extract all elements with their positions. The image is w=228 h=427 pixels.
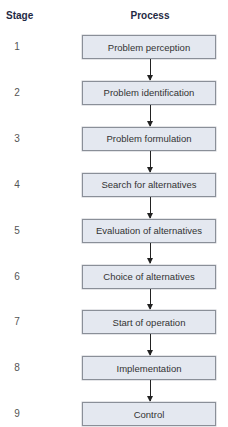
down-arrow-icon (150, 59, 151, 80)
stage-column-header: Stage (6, 10, 33, 21)
stage-number: 3 (12, 133, 22, 144)
process-box: Implementation (82, 356, 216, 380)
process-box: Choice of alternatives (82, 265, 216, 289)
down-arrow-icon (150, 197, 151, 218)
stage-number: 1 (12, 41, 22, 52)
process-box: Problem identification (82, 81, 216, 105)
flow-step: 4Search for alternatives (0, 173, 228, 198)
stage-number: 9 (12, 408, 22, 419)
stage-number: 5 (12, 225, 22, 236)
stage-number: 2 (12, 87, 22, 98)
process-box: Problem perception (82, 35, 216, 59)
stage-number: 6 (12, 271, 22, 282)
flow-step: 5Evaluation of alternatives (0, 219, 228, 244)
stage-number: 4 (12, 179, 22, 190)
down-arrow-icon (150, 380, 151, 401)
stage-number: 8 (12, 362, 22, 373)
flow-step: 6Choice of alternatives (0, 265, 228, 290)
process-box: Control (82, 402, 216, 426)
down-arrow-icon (150, 289, 151, 310)
down-arrow-icon (150, 334, 151, 355)
flow-step: 1Problem perception (0, 35, 228, 60)
process-box: Problem formulation (82, 127, 216, 151)
flow-step: 3Problem formulation (0, 127, 228, 152)
stage-number: 7 (12, 316, 22, 327)
flow-step: 7Start of operation (0, 310, 228, 335)
down-arrow-icon (150, 105, 151, 126)
process-column-header: Process (82, 10, 218, 21)
process-box: Search for alternatives (82, 173, 216, 197)
down-arrow-icon (150, 151, 151, 172)
process-box: Start of operation (82, 310, 216, 334)
down-arrow-icon (150, 243, 151, 264)
flow-step: 2Problem identification (0, 81, 228, 106)
process-box: Evaluation of alternatives (82, 219, 216, 243)
flow-step: 9Control (0, 402, 228, 427)
flow-step: 8Implementation (0, 356, 228, 381)
